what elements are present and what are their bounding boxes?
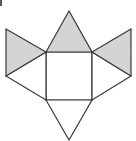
top-triangle xyxy=(46,11,92,52)
center-square xyxy=(46,52,92,100)
bottom-triangle xyxy=(46,100,92,140)
pyramid-net-diagram xyxy=(0,0,136,141)
